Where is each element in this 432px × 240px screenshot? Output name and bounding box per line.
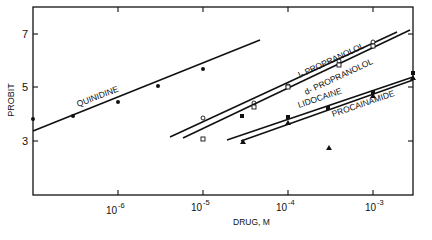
svg-text:-6: -6 bbox=[118, 201, 125, 210]
x-tick-label-1e-5: 10 -5 bbox=[191, 198, 210, 213]
probit-chart: 7 5 3 PROBIT 10 -6 10 -5 10 -4 10 -3 DRU… bbox=[0, 0, 432, 240]
y-axis-label: PROBIT bbox=[6, 83, 16, 117]
x-tick-label-1e-6: 10 -6 bbox=[106, 201, 125, 216]
x-tick-label-1e-3: 10 -3 bbox=[365, 198, 384, 213]
svg-text:10: 10 bbox=[191, 202, 203, 213]
series-d-propranolol: d- PROPRANOLOL bbox=[183, 30, 410, 141]
svg-text:-3: -3 bbox=[377, 198, 384, 207]
svg-text:-4: -4 bbox=[288, 198, 295, 207]
x-ticks bbox=[118, 7, 373, 195]
y-tick-label-7: 7 bbox=[22, 28, 28, 40]
svg-text:10: 10 bbox=[106, 205, 118, 216]
x-axis-label: DRUG, M bbox=[233, 217, 270, 227]
svg-text:-5: -5 bbox=[203, 198, 210, 207]
svg-text:10: 10 bbox=[276, 202, 288, 213]
svg-text:10: 10 bbox=[365, 202, 377, 213]
x-tick-label-1e-4: 10 -4 bbox=[276, 198, 295, 213]
y-tick-label-5: 5 bbox=[22, 81, 28, 93]
y-tick-label-3: 3 bbox=[22, 135, 28, 147]
